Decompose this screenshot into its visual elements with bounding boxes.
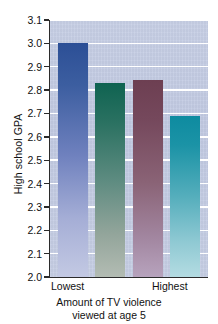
x-tick-label-highest: Highest xyxy=(152,280,188,292)
y-tick-mark xyxy=(44,89,49,90)
y-tick-mark xyxy=(44,206,49,207)
plot-area xyxy=(50,20,208,277)
bar xyxy=(95,83,125,277)
y-tick-mark xyxy=(44,136,49,137)
gridline xyxy=(50,20,208,21)
y-tick-label: 2.9 xyxy=(2,62,42,72)
y-tick-label: 2.8 xyxy=(2,85,42,95)
x-axis-title-line-1: Amount of TV violence xyxy=(0,296,218,309)
bar xyxy=(133,80,163,277)
y-tick-label: 2.7 xyxy=(2,108,42,118)
y-tick-label: 2.1 xyxy=(2,249,42,259)
y-tick-label: 2.4 xyxy=(2,179,42,189)
bar xyxy=(58,43,88,277)
x-axis-line xyxy=(49,277,208,278)
y-tick-label: 2.2 xyxy=(2,225,42,235)
y-tick-mark xyxy=(44,253,49,254)
y-tick-mark xyxy=(44,183,49,184)
y-tick-mark xyxy=(44,66,49,67)
y-tick-mark xyxy=(44,113,49,114)
y-tick-label: 3.1 xyxy=(2,15,42,25)
bar xyxy=(170,116,200,277)
y-tick-label: 2.6 xyxy=(2,132,42,142)
x-axis-title: Amount of TV violence viewed at age 5 xyxy=(0,296,218,322)
y-tick-mark xyxy=(44,230,49,231)
y-tick-label: 2.5 xyxy=(2,155,42,165)
y-tick-label: 2.3 xyxy=(2,202,42,212)
y-tick-label: 3.0 xyxy=(2,38,42,48)
x-tick-label-lowest: Lowest xyxy=(51,280,84,292)
y-tick-mark xyxy=(44,160,49,161)
y-axis-line xyxy=(49,20,50,278)
y-tick-label: 2.0 xyxy=(2,272,42,282)
y-tick-mark xyxy=(44,276,49,277)
bar-chart-figure: High school GPA 3.13.02.92.82.72.62.52.4… xyxy=(0,0,218,324)
y-tick-mark xyxy=(44,43,49,44)
x-axis-title-line-2: viewed at age 5 xyxy=(0,309,218,322)
y-tick-mark xyxy=(44,19,49,20)
